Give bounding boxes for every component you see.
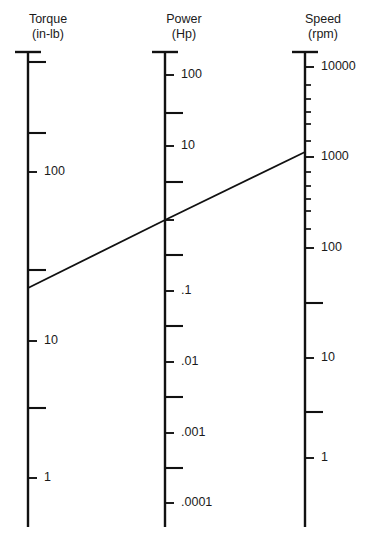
axis-name-torque: Torque [29,12,67,26]
tick-label-speed: 100 [321,241,342,254]
tick-label-power: 100 [181,68,202,81]
tick-label-power: 10 [181,139,195,152]
axis-unit-speed: (rpm) [283,27,363,42]
tick-label-torque: 10 [44,334,58,347]
tick-label-power: .01 [181,355,198,368]
tick-label-speed: 1 [321,451,328,464]
axis-title-torque: Torque(in-lb) [8,12,88,42]
axis-unit-power: (Hp) [144,27,224,42]
axis-title-speed: Speed(rpm) [283,12,363,42]
nomogram-figure: Torque(in-lb)100101Power(Hp)10010.1.01.0… [0,0,368,546]
tick-label-power: .001 [181,426,205,439]
axis-name-speed: Speed [305,12,341,26]
tick-label-power: .1 [181,284,191,297]
tick-label-speed: 1000 [321,150,349,163]
tick-label-speed: 10 [321,351,335,364]
tick-label-speed: 10000 [321,60,356,73]
tick-label-power: .0001 [181,496,212,509]
labels-layer: Torque(in-lb)100101Power(Hp)10010.1.01.0… [0,0,368,546]
tick-label-torque: 1 [44,471,51,484]
axis-unit-torque: (in-lb) [8,27,88,42]
tick-label-torque: 100 [44,165,65,178]
axis-title-power: Power(Hp) [144,12,224,42]
axis-name-power: Power [166,12,201,26]
